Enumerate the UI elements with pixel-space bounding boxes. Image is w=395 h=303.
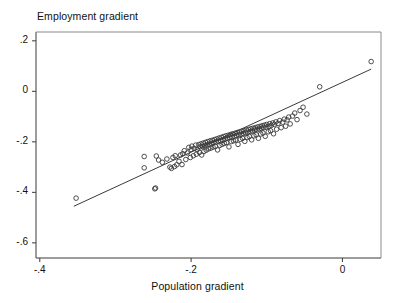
plot-canvas <box>0 0 395 303</box>
scatter-plot-figure: Employment gradient Population gradient … <box>0 0 395 303</box>
scatter-points <box>74 59 374 200</box>
axis-ticks <box>32 41 342 262</box>
plot-frame <box>36 32 381 258</box>
